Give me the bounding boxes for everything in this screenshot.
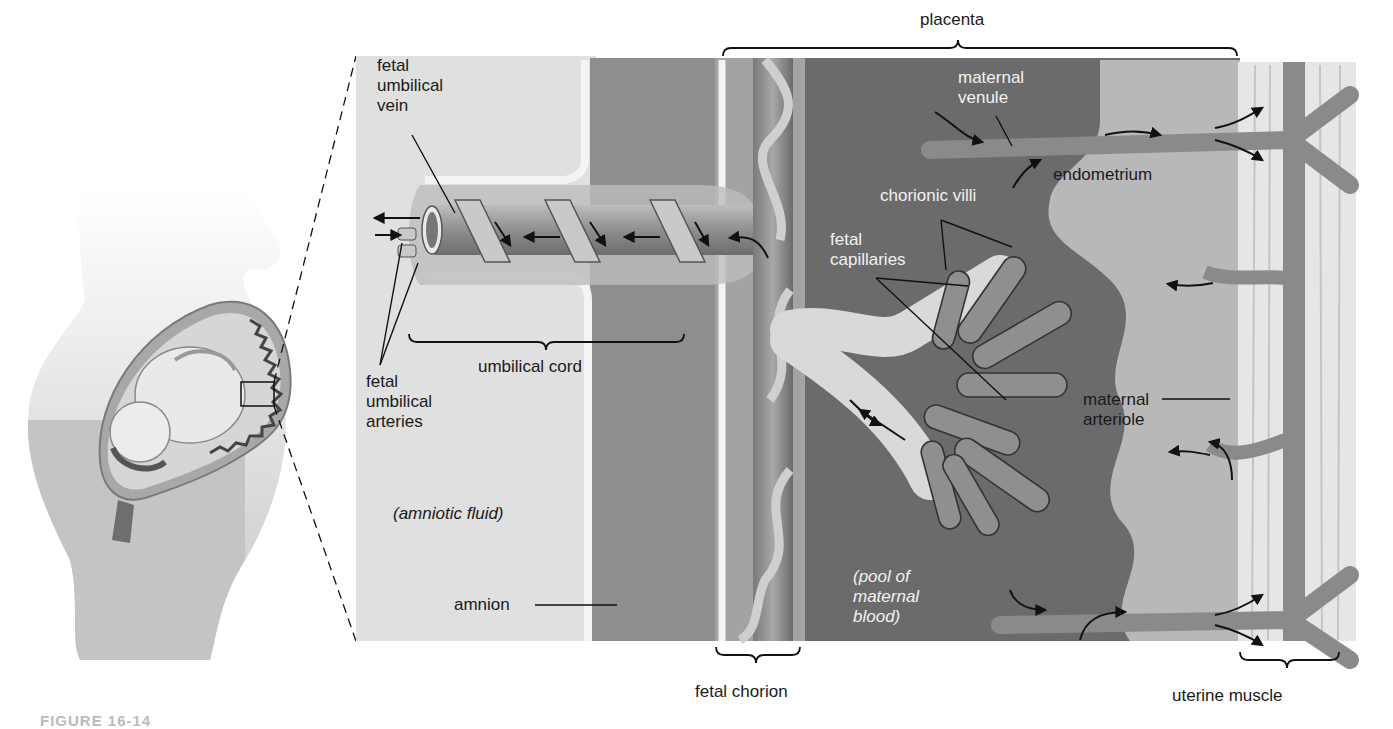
label-fetal-umbilical-vein: fetal umbilical vein	[377, 56, 443, 116]
label-fetal-umbilical-arteries: fetal umbilical arteries	[366, 372, 432, 432]
label-pool-of-maternal-blood: (pool of maternal blood)	[853, 567, 919, 627]
label-endometrium: endometrium	[1053, 165, 1152, 185]
umbilical-artery-stub-1	[398, 228, 416, 240]
label-fetal-chorion: fetal chorion	[695, 682, 788, 702]
label-maternal-arteriole: maternal arteriole	[1083, 390, 1149, 430]
inset-projection-line-bottom	[274, 406, 356, 641]
label-umbilical-cord: umbilical cord	[478, 357, 582, 377]
label-placenta: placenta	[920, 10, 984, 30]
pregnant-body-illustration	[28, 190, 291, 660]
label-fetal-capillaries: fetal capillaries	[830, 230, 906, 270]
figure-caption: FIGURE 16-14	[40, 712, 151, 729]
label-maternal-venule: maternal venule	[958, 68, 1024, 108]
amnion-region	[590, 58, 720, 641]
label-chorionic-villi: chorionic villi	[880, 186, 976, 206]
inset-projection-line-top	[274, 56, 356, 382]
amniotic-fluid-region	[356, 56, 596, 641]
fetus-head	[110, 402, 170, 462]
fetal-chorion-brace	[716, 647, 800, 663]
label-amnion: amnion	[454, 595, 510, 615]
label-amniotic-fluid: (amniotic fluid)	[393, 504, 504, 524]
label-uterine-muscle: uterine muscle	[1172, 686, 1283, 706]
maternal-arteriole-upper	[1205, 272, 1285, 278]
placenta-brace	[723, 40, 1237, 56]
uterine-muscle-brace	[1240, 652, 1339, 668]
